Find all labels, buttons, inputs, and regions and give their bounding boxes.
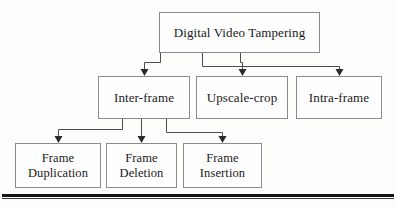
- node-digital-video-tampering: Digital Video Tampering: [159, 12, 320, 53]
- node-upscale-crop: Upscale-crop: [196, 76, 288, 119]
- arrowhead-inter-frame: [141, 69, 149, 76]
- node-label-upscale-crop: Upscale-crop: [204, 90, 281, 105]
- node-label-root: Digital Video Tampering: [171, 25, 309, 40]
- node-inter-frame: Inter-frame: [98, 76, 190, 119]
- edge-root-to-inter-frame: [145, 53, 161, 69]
- node-label-intra-frame: Intra-frame: [306, 90, 372, 105]
- node-label-frame-deletion: Frame Deletion: [117, 151, 167, 181]
- arrowhead-frame-deletion: [138, 136, 146, 143]
- node-label-frame-duplication: Frame Duplication: [25, 151, 91, 181]
- footer-divider-thin-line: [2, 198, 394, 199]
- arrowhead-intra-frame: [336, 69, 344, 76]
- arrowhead-frame-duplication: [55, 136, 63, 143]
- node-frame-deletion: Frame Deletion: [106, 143, 177, 188]
- footer-divider: [2, 194, 394, 199]
- node-label-frame-insertion: Frame Insertion: [197, 151, 248, 181]
- node-label-inter-frame: Inter-frame: [111, 90, 177, 105]
- node-intra-frame: Intra-frame: [296, 76, 382, 119]
- arrowhead-upscale-crop: [239, 69, 247, 76]
- edge-root-to-intra-frame: [203, 53, 340, 69]
- edge-inter-to-frame-insertion: [167, 119, 223, 136]
- node-frame-insertion: Frame Insertion: [183, 143, 262, 188]
- edge-root-to-upscale-crop: [241, 53, 243, 69]
- node-frame-duplication: Frame Duplication: [15, 143, 101, 188]
- edge-inter-to-frame-duplication: [59, 119, 123, 136]
- diagram-canvas: Digital Video Tampering Inter-frame Upsc…: [0, 0, 396, 210]
- arrowhead-frame-insertion: [219, 136, 227, 143]
- footer-divider-thick-line: [2, 194, 394, 197]
